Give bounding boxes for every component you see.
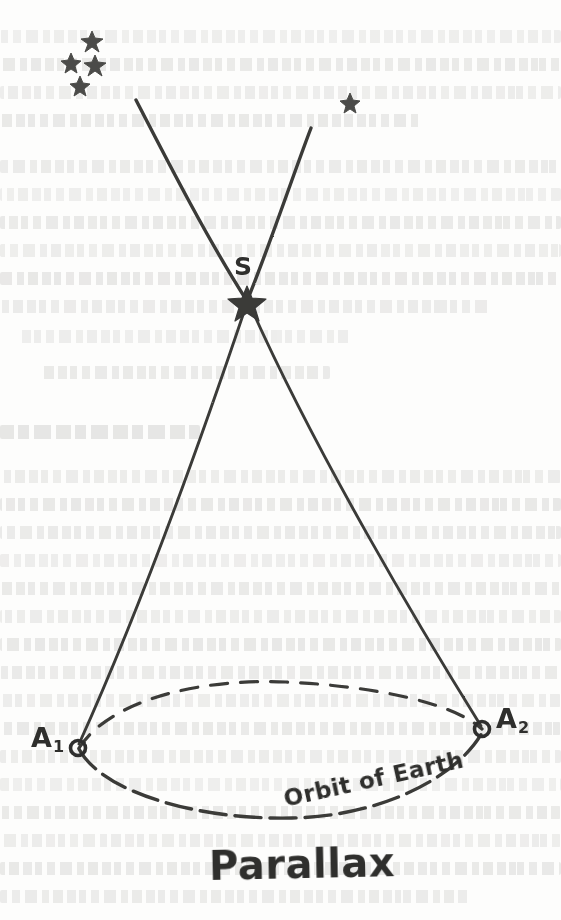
background-star-field [61, 31, 360, 113]
sight-line-upper-left [136, 100, 247, 301]
background-star-icon [70, 76, 90, 96]
subscript-1: 1 [53, 737, 64, 756]
background-star-icon [81, 31, 103, 52]
figure-page: S A1 A2 Orbit of Earth Parallax [0, 0, 561, 920]
figure-title-parallax: Parallax [209, 839, 396, 889]
star-S-glyph [228, 286, 266, 321]
sight-line-S-to-A2 [249, 303, 481, 726]
sight-line-upper-right [247, 128, 311, 301]
subscript-2: 2 [518, 718, 529, 737]
earth-orbit-far-arc [79, 682, 482, 748]
earth-position-label-A2: A2 [496, 703, 529, 737]
earth-position-label-A1: A1 [31, 722, 64, 756]
background-star-icon [84, 55, 106, 76]
sight-line-S-to-A1 [79, 303, 247, 744]
background-star-icon [340, 93, 360, 113]
background-star-icon [61, 53, 81, 73]
parallax-drawing [0, 0, 561, 920]
star-label-S: S [234, 252, 252, 281]
